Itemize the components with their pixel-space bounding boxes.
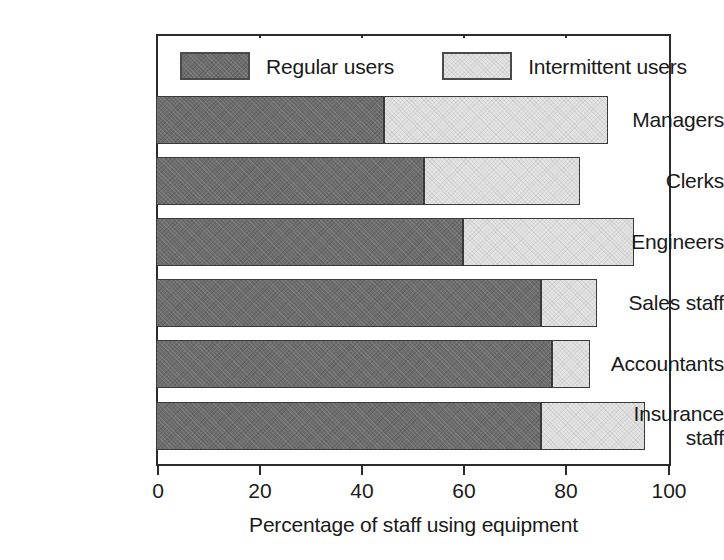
bar-segment-regular	[156, 96, 384, 144]
x-tick-label-0: 0	[152, 479, 164, 503]
x-tick-0	[157, 466, 159, 475]
category-label-text-line2: staff	[572, 426, 724, 450]
category-label-text: Managers	[632, 108, 724, 131]
bar-segment-regular	[156, 402, 541, 450]
x-tick-label-40: 40	[350, 479, 373, 503]
category-label-clerks: Clerks	[572, 169, 724, 193]
dark-hatch-swatch-icon	[180, 52, 250, 80]
bar-segment-regular	[156, 279, 541, 327]
legend-label-intermittent-users: Intermittent users	[528, 56, 687, 77]
bar-segment-regular	[156, 218, 463, 266]
bar-segment-intermittent	[424, 157, 580, 205]
x-tick-40	[361, 466, 363, 475]
category-label-text: Insurance	[572, 402, 724, 426]
category-label-engineers: Engineers	[572, 230, 724, 254]
legend-label-regular-users: Regular users	[266, 56, 394, 77]
category-label-sales-staff: Sales staff	[572, 291, 724, 315]
chart-legend: Regular users Intermittent users	[158, 38, 669, 94]
x-tick-label-80: 80	[554, 479, 577, 503]
category-label-insurance-staff: Insurance staff	[572, 402, 724, 450]
x-tick-60	[463, 466, 465, 475]
x-tick-label-100: 100	[651, 479, 686, 503]
stacked-bar-chart-figure: Regular users Intermittent users Manager…	[0, 0, 724, 560]
category-label-text: Accountants	[611, 352, 724, 375]
x-tick-80	[565, 466, 567, 475]
category-label-accountants: Accountants	[572, 352, 724, 376]
bar-segment-regular	[156, 157, 424, 205]
category-label-text: Engineers	[631, 230, 724, 253]
x-tick-label-20: 20	[248, 479, 271, 503]
light-hatch-swatch-icon	[442, 52, 512, 80]
category-label-text: Sales staff	[629, 291, 724, 314]
category-label-text: Clerks	[666, 169, 724, 192]
category-label-managers: Managers	[572, 108, 724, 132]
x-tick-20	[259, 466, 261, 475]
legend-item-regular-users: Regular users	[180, 52, 394, 80]
bar-segment-regular	[156, 340, 552, 388]
x-tick-100	[668, 466, 670, 475]
x-axis-title: Percentage of staff using equipment	[156, 513, 671, 537]
legend-item-intermittent-users: Intermittent users	[442, 52, 687, 80]
x-tick-label-60: 60	[452, 479, 475, 503]
